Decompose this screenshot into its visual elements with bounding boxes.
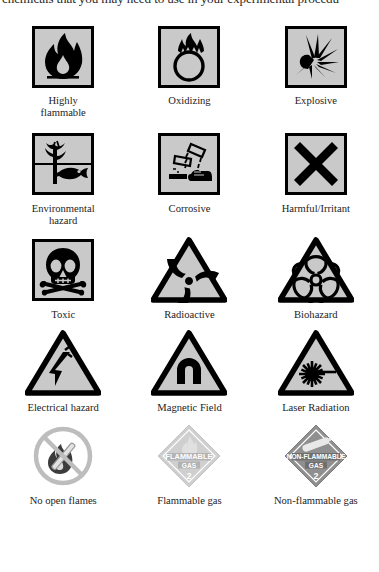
symbol-label: Oxidizing [168,95,210,107]
hazard-symbol-grid: Highly flammable Oxidizing [0,22,379,508]
symbol-graphic-wrap [32,234,94,306]
gas-cylinder-placard-icon: NON-FLAMMABLE GAS 2 [283,423,349,489]
symbol-cell-biohazard: Biohazard [253,234,379,321]
symbol-label-line1: Toxic [51,309,75,320]
flame-icon [32,26,94,88]
symbol-cell-no-open-flames: No open flames [0,420,126,507]
symbol-cell-corrosive: Corrosive [126,128,252,228]
symbol-cell-radioactive: Radioactive [126,234,252,321]
symbol-label-line1: Electrical hazard [27,402,98,413]
symbol-label: Highly flammable [41,95,86,120]
symbol-label-line1: Magnetic Field [157,402,221,413]
symbol-cell-explosive: Explosive [253,22,379,120]
symbol-label-line2: hazard [49,215,77,226]
skull-and-crossbones-icon [32,239,94,301]
symbol-label: Explosive [295,95,337,107]
symbol-label-line1: Radioactive [164,309,215,320]
symbol-graphic-wrap [151,234,227,306]
symbol-label: Biohazard [294,309,338,321]
symbol-label-line1: Non-flammable gas [274,495,358,506]
symbol-graphic-wrap [285,22,347,92]
symbol-label: Magnetic Field [157,402,221,414]
symbol-cell-magnetic-field: Magnetic Field [126,327,252,414]
symbol-label: Environmental hazard [32,203,95,228]
flame-placard-icon: FLAMMABLE GAS 2 [156,423,222,489]
horseshoe-magnet-icon [151,330,227,396]
symbol-graphic-wrap [278,327,354,399]
symbol-cell-flammable-gas: FLAMMABLE GAS 2 Flammable gas [126,420,252,507]
dead-tree-and-fish-icon [32,133,94,195]
symbol-row-3: Toxic Radioact [0,234,379,321]
symbol-cell-electrical-hazard: Electrical hazard [0,327,126,414]
symbol-label-line2: flammable [41,107,86,118]
symbol-graphic-wrap [158,22,220,92]
symbol-cell-highly-flammable: Highly flammable [0,22,126,120]
symbol-label-line1: Harmful/Irritant [282,203,350,214]
running-text-clip: chemicals that you may need to use in yo… [0,0,379,11]
symbol-graphic-wrap [31,420,95,492]
lightning-bolt-icon [25,330,101,396]
symbol-label: Non-flammable gas [274,495,358,507]
symbol-graphic-wrap [278,234,354,306]
symbol-graphic-wrap: NON-FLAMMABLE GAS 2 [283,420,349,492]
symbol-cell-environmental-hazard: Environmental hazard [0,128,126,228]
exploding-bomb-icon [285,26,347,88]
saint-andrews-cross-icon [285,133,347,195]
corrosion-test-tubes-icon [158,133,220,195]
symbol-label: Harmful/Irritant [282,203,350,215]
symbol-label-line1: Laser Radiation [282,402,349,413]
placard-class-number: 2 [187,471,192,481]
symbol-label-line1: Highly [48,95,77,106]
symbol-graphic-wrap [32,128,94,200]
symbol-cell-non-flammable-gas: NON-FLAMMABLE GAS 2 Non-flammable gas [253,420,379,507]
symbol-label-line1: No open flames [30,495,97,506]
symbol-label: Laser Radiation [282,402,349,414]
symbol-cell-harmful-irritant: Harmful/Irritant [253,128,379,228]
radioactive-trefoil-icon [151,237,227,303]
symbol-label-line1: Explosive [295,95,337,106]
symbol-cell-oxidizing: Oxidizing [126,22,252,120]
placard-text-line1: NON-FLAMMABLE [287,453,346,460]
symbol-row-2: Environmental hazard [0,128,379,228]
laser-beam-icon [278,330,354,396]
symbol-label: Toxic [51,309,75,321]
symbol-graphic-wrap [151,327,227,399]
symbol-label: Flammable gas [157,495,221,507]
biohazard-icon [278,237,354,303]
symbol-graphic-wrap [25,327,101,399]
placard-class-number: 2 [313,471,318,481]
placard-text-line2: GAS [309,462,324,469]
placard-text-line2: GAS [182,462,197,469]
symbol-label-line1: Oxidizing [168,95,210,106]
symbol-label: No open flames [30,495,97,507]
row-spacer [0,120,379,128]
symbol-graphic-wrap [285,128,347,200]
symbol-label: Corrosive [169,203,211,215]
symbol-row-4: Electrical hazard Magnetic Field [0,327,379,414]
symbol-row-5: No open flames FLAMMABLE GAS 2 [0,420,379,507]
symbol-label-line1: Biohazard [294,309,338,320]
symbol-graphic-wrap [158,128,220,200]
symbol-label-line1: Flammable gas [157,495,221,506]
symbol-row-1: Highly flammable Oxidizing [0,22,379,120]
symbol-label-line1: Environmental [32,203,95,214]
symbol-graphic-wrap [32,22,94,92]
symbol-cell-laser-radiation: Laser Radiation [253,327,379,414]
running-text-top: chemicals that you may need to use in yo… [2,0,339,7]
symbol-cell-toxic: Toxic [0,234,126,321]
symbol-label: Radioactive [164,309,215,321]
flame-over-circle-icon [158,26,220,88]
symbol-graphic-wrap: FLAMMABLE GAS 2 [156,420,222,492]
symbol-label-line1: Corrosive [169,203,211,214]
symbol-label: Electrical hazard [27,402,98,414]
placard-text-line1: FLAMMABLE [166,452,213,461]
no-open-flame-icon [31,424,95,488]
